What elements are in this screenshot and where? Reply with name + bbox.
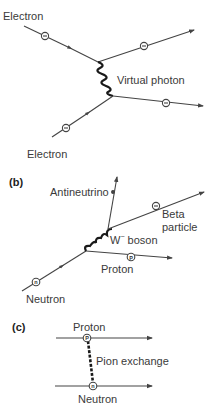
feynman-diagrams: P n P n bbox=[0, 0, 207, 413]
proton-label-b: Proton bbox=[101, 263, 133, 275]
svg-text:P: P bbox=[129, 255, 133, 261]
proton-label-c: Proton bbox=[73, 321, 105, 333]
electron-out-bottom-line bbox=[113, 96, 203, 106]
electron-top-label: Electron bbox=[3, 10, 43, 22]
beta-label-line2: particle bbox=[162, 221, 197, 233]
panel-c-label: (c) bbox=[12, 321, 25, 333]
electron-bottom-label: Electron bbox=[27, 148, 67, 160]
svg-text:P: P bbox=[85, 335, 89, 341]
neutron-label-c: Neutron bbox=[78, 393, 117, 405]
neutron-label-b: Neutron bbox=[26, 293, 65, 305]
w-boson-label: W− boson bbox=[110, 231, 158, 246]
virtual-photon-wave bbox=[97, 62, 113, 96]
virtual-photon-label: Virtual photon bbox=[117, 74, 185, 86]
antineutrino-label: Antineutrino bbox=[50, 186, 109, 198]
electron-in-bottom-line bbox=[52, 113, 88, 137]
pion-exchange-label: Pion exchange bbox=[96, 355, 169, 367]
pion-exchange-line bbox=[88, 341, 93, 383]
antineutrino-line bbox=[108, 177, 117, 229]
w-boson-wave bbox=[85, 229, 112, 251]
beta-label-line1: Beta bbox=[162, 208, 185, 220]
panel-b-label: (b) bbox=[9, 176, 23, 188]
neutron-in-line bbox=[22, 266, 62, 291]
